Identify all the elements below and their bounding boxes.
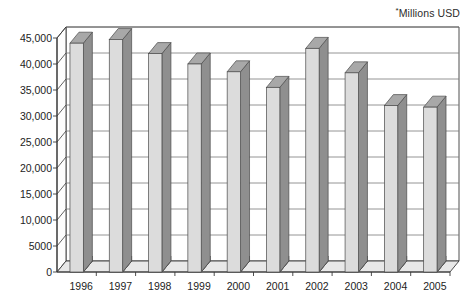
x-tick-label: 2000 [227,280,250,292]
x-axis: 1996199719981999200020012002200320042005 [0,0,472,308]
x-tick-label: 1998 [148,280,171,292]
x-tick-label: 2005 [423,280,446,292]
x-tick-label: 2003 [345,280,368,292]
x-tick-label: 1997 [109,280,132,292]
x-tick-label: 2004 [384,280,407,292]
bar-chart: *Millions USD 0500010,00015,00020,00025,… [0,0,472,308]
x-tick-label: 2002 [305,280,328,292]
x-tick-label: 2001 [266,280,289,292]
x-tick-label: 1999 [187,280,210,292]
x-tick-label: 1996 [69,280,92,292]
